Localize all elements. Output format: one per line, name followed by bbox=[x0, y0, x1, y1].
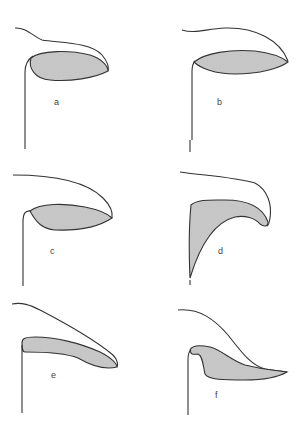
nose-line-f bbox=[188, 350, 191, 415]
panel-e bbox=[12, 280, 118, 413]
panel-b bbox=[182, 28, 288, 140]
eye-shape-d bbox=[189, 200, 268, 278]
panel-f bbox=[178, 280, 287, 415]
figure-illustrations bbox=[0, 0, 306, 423]
nose-line-c bbox=[23, 211, 31, 280]
eye-shape-f bbox=[190, 346, 287, 380]
eye-shape-e bbox=[22, 337, 117, 368]
label-c: c bbox=[50, 246, 55, 256]
panel-d bbox=[180, 140, 270, 278]
label-b: b bbox=[217, 97, 222, 107]
label-a: a bbox=[54, 97, 59, 107]
panel-c bbox=[13, 140, 112, 280]
label-d: d bbox=[218, 246, 223, 256]
eye-shape-c bbox=[30, 204, 112, 230]
nose-line-b bbox=[192, 61, 195, 140]
eye-shape-a bbox=[30, 52, 108, 81]
eye-shape-b bbox=[194, 50, 288, 74]
panel-a bbox=[15, 28, 108, 140]
label-e: e bbox=[51, 370, 56, 380]
label-f: f bbox=[215, 390, 218, 400]
